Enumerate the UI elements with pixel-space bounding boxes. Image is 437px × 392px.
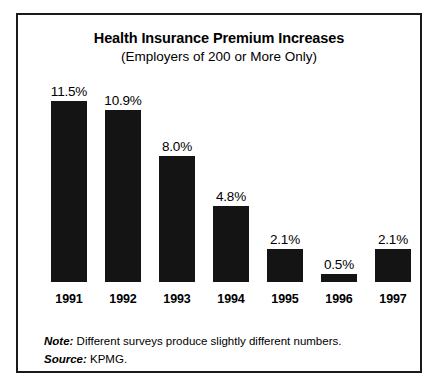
bar-group: 4.8%1994 xyxy=(204,11,258,371)
footnote-note-label: Note: xyxy=(44,335,73,347)
footnotes-block: Note: Different surveys produce slightly… xyxy=(44,333,404,369)
x-axis-label-1995: 1995 xyxy=(258,292,312,306)
footnote-source-label: Source: xyxy=(44,353,87,365)
x-axis-label-1994: 1994 xyxy=(204,292,258,306)
bar-group: 0.5%1996 xyxy=(312,11,366,371)
bar-1996 xyxy=(321,274,357,282)
bar-1994 xyxy=(213,206,249,282)
bar-value-label: 11.5% xyxy=(42,84,96,99)
chart-figure-frame: Health Insurance Premium Increases (Empl… xyxy=(16,13,422,373)
bar-value-label: 4.8% xyxy=(204,189,258,204)
x-axis-label-1996: 1996 xyxy=(312,292,366,306)
x-axis-label-1992: 1992 xyxy=(96,292,150,306)
x-axis-label-1997: 1997 xyxy=(366,292,420,306)
bar-1991 xyxy=(51,101,87,282)
bar-1992 xyxy=(105,110,141,282)
bar-value-label: 2.1% xyxy=(366,232,420,247)
bar-group: 2.1%1997 xyxy=(366,11,420,371)
footnote-note: Note: Different surveys produce slightly… xyxy=(44,333,404,351)
footnote-note-text: Different surveys produce slightly diffe… xyxy=(77,335,342,347)
bar-group: 2.1%1995 xyxy=(258,11,312,371)
bar-value-label: 10.9% xyxy=(96,93,150,108)
bar-1993 xyxy=(159,156,195,282)
bar-1995 xyxy=(267,249,303,282)
x-axis-label-1991: 1991 xyxy=(42,292,96,306)
bar-1997 xyxy=(375,249,411,282)
bar-group: 10.9%1992 xyxy=(96,11,150,371)
bar-group: 8.0%1993 xyxy=(150,11,204,371)
bar-value-label: 8.0% xyxy=(150,139,204,154)
x-axis-label-1993: 1993 xyxy=(150,292,204,306)
bar-value-label: 2.1% xyxy=(258,232,312,247)
bar-value-label: 0.5% xyxy=(312,257,366,272)
bar-group: 11.5%1991 xyxy=(42,11,96,371)
plot-area: 11.5%199110.9%19928.0%19934.8%19942.1%19… xyxy=(18,15,420,371)
footnote-source: Source: KPMG. xyxy=(44,351,404,369)
footnote-source-text: KPMG. xyxy=(90,353,127,365)
